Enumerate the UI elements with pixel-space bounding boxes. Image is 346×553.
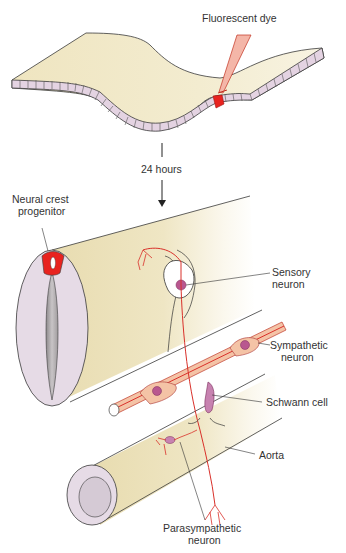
label-24-hours: 24 hours [141, 163, 182, 175]
label-sympathetic-line1: Sympathetic [270, 339, 328, 351]
label-parasympathetic-line2: neuron [188, 534, 221, 546]
label-neural-crest-line2: progenitor [18, 205, 65, 217]
label-sensory-line1: Sensory [272, 266, 311, 278]
neural-crest-leader [42, 228, 48, 251]
aorta [67, 374, 282, 525]
neural-crest-diagram: Fluorescent dye 24 hours Neural crest pr… [0, 0, 346, 553]
label-aorta: Aorta [259, 449, 284, 461]
sympathetic-nucleus-2 [241, 341, 250, 350]
chain-end [109, 404, 119, 416]
sympathetic-nucleus-1 [153, 387, 162, 396]
neural-plate [12, 33, 324, 131]
label-sympathetic-line2: neuron [281, 351, 314, 363]
label-parasympathetic-line1: Parasympathetic [163, 522, 241, 534]
neural-tube [16, 196, 262, 406]
label-sensory-line2: neuron [272, 278, 305, 290]
aorta-lumen [79, 477, 111, 517]
label-neural-crest-line1: Neural crest [12, 193, 69, 205]
label-schwann-cell: Schwann cell [266, 396, 328, 408]
time-arrow-head [158, 200, 166, 207]
label-fluorescent-dye: Fluorescent dye [202, 12, 277, 24]
dye-labeled-cell [213, 95, 224, 108]
